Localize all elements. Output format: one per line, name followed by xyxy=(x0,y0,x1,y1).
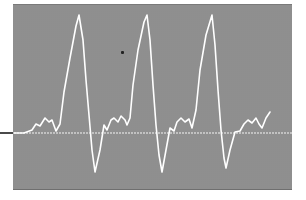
dust-speck xyxy=(121,51,124,54)
waveform-plot xyxy=(0,0,306,200)
waveform-trace xyxy=(14,15,270,172)
